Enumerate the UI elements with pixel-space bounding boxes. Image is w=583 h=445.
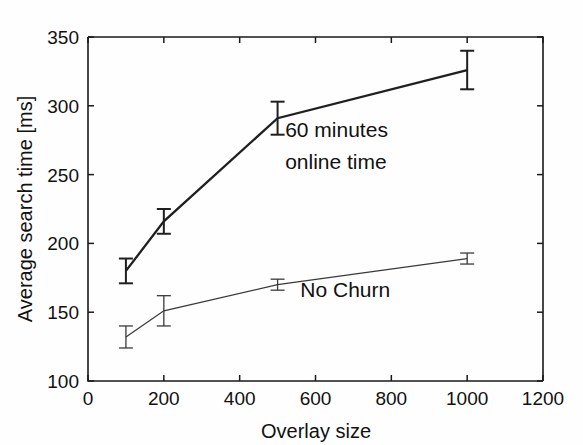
series-line-1 — [126, 259, 467, 337]
axis-spine-left-bottom — [88, 37, 543, 381]
chart-tick-labels: 100150200250300350020040060080010001200 — [47, 27, 564, 409]
error-bar-1-2 — [271, 279, 285, 290]
error-bar-1-1 — [157, 296, 171, 326]
axis-spine-top-right — [88, 37, 543, 381]
error-bar-0-2 — [271, 102, 285, 135]
chart-plot-svg: 100150200250300350020040060080010001200 … — [0, 0, 583, 445]
chart-figure: 100150200250300350020040060080010001200 … — [0, 0, 583, 445]
error-bar-0-3 — [460, 51, 474, 90]
error-bar-1-3 — [460, 253, 474, 264]
y-tick-label-4: 300 — [47, 96, 79, 117]
annotation-2: No Churn — [300, 278, 390, 301]
y-tick-label-3: 250 — [47, 165, 79, 186]
x-tick-label-2: 400 — [224, 388, 256, 409]
y-tick-label-1: 150 — [47, 302, 79, 323]
x-tick-label-3: 600 — [300, 388, 332, 409]
x-tick-label-5: 1000 — [446, 388, 488, 409]
error-bar-0-0 — [119, 259, 133, 284]
annotation-0: 60 minutes — [285, 118, 388, 141]
chart-series — [126, 70, 467, 337]
y-tick-label-2: 200 — [47, 233, 79, 254]
x-tick-label-4: 800 — [375, 388, 407, 409]
chart-ticks — [88, 37, 543, 381]
error-bar-0-1 — [157, 209, 171, 234]
x-tick-label-0: 0 — [83, 388, 94, 409]
chart-axes — [88, 37, 543, 381]
y-tick-label-0: 100 — [47, 371, 79, 392]
error-bar-1-0 — [119, 326, 133, 348]
x-axis-title: Overlay size — [261, 420, 371, 442]
chart-annotations: 60 minutesonline timeNo Churn — [285, 118, 390, 301]
y-tick-label-5: 350 — [47, 27, 79, 48]
x-tick-label-6: 1200 — [522, 388, 564, 409]
annotation-1: online time — [285, 150, 387, 173]
y-axis-title: Average search time [ms] — [14, 96, 36, 322]
chart-error-bars — [119, 51, 474, 348]
x-tick-label-1: 200 — [148, 388, 180, 409]
